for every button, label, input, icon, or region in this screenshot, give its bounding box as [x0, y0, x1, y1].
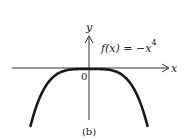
function-graph: y x 0 f(x) = −x4 (b) [0, 0, 184, 139]
origin-label: 0 [81, 71, 87, 82]
y-axis-label: y [85, 21, 93, 34]
function-label-base: f(x) = −x [100, 42, 152, 55]
function-label-exponent: 4 [152, 38, 157, 47]
figure-caption: (b) [82, 126, 96, 137]
x-axis-label: x [171, 62, 178, 75]
function-label: f(x) = −x4 [100, 38, 157, 55]
